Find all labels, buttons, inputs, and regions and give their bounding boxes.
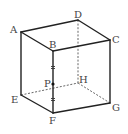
label-A: A — [9, 24, 18, 35]
point-P-dot — [51, 82, 54, 85]
edge-EF — [21, 95, 53, 113]
edge-BC — [53, 40, 110, 51]
label-C: C — [112, 34, 120, 45]
edge-FG — [53, 103, 110, 113]
label-D: D — [74, 9, 82, 20]
edge-DA — [21, 20, 78, 32]
label-B: B — [49, 39, 56, 50]
edge-CD — [78, 20, 110, 40]
cube-diagram: A B C D E F G H P — [0, 0, 128, 134]
label-P: P — [44, 78, 51, 89]
edge-HG — [78, 83, 110, 103]
label-E: E — [11, 94, 18, 105]
label-F: F — [49, 115, 56, 126]
label-G: G — [112, 102, 120, 113]
label-H: H — [79, 74, 88, 85]
